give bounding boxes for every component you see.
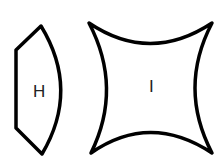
shape-h-label: H — [33, 83, 45, 100]
shape-i-label: I — [149, 78, 154, 95]
